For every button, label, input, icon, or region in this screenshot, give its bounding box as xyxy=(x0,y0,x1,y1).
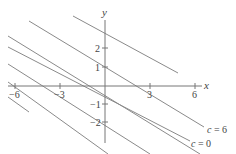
y-tick-label: −1 xyxy=(90,99,101,110)
x-tick-label: −6 xyxy=(9,89,20,100)
y-tick-label: 2 xyxy=(95,43,100,54)
y-axis-label: y xyxy=(101,6,107,18)
y-tick-label: 1 xyxy=(95,62,100,73)
curve-label-c0: c = 0 xyxy=(191,138,211,149)
level-curve-c9 xyxy=(73,16,178,73)
axes xyxy=(8,20,202,143)
x-tick-label: 3 xyxy=(147,89,152,100)
x-axis-label: x xyxy=(203,79,209,91)
y-tick-label: −2 xyxy=(90,117,101,128)
level-curve-c3 xyxy=(8,36,200,154)
level-curve-c6 xyxy=(29,21,204,127)
curve-label-c6: c = 6 xyxy=(207,124,227,135)
x-tick-label: 6 xyxy=(192,89,197,100)
level-curves-diagram: x y −6 −3 3 6 2 1 −1 −2 c = 6 c = 0 xyxy=(0,0,236,154)
x-tick-label: −3 xyxy=(54,89,65,100)
level-curves xyxy=(8,16,204,154)
